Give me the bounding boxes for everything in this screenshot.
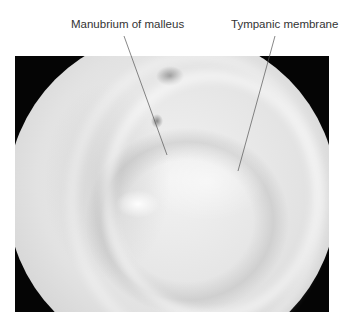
otoscope-frame	[15, 56, 329, 312]
outer-rim-highlight	[67, 56, 327, 312]
label-tympanic-membrane: Tympanic membrane	[231, 19, 338, 31]
tympanic-membrane-view	[15, 56, 329, 312]
label-manubrium-of-malleus: Manubrium of malleus	[71, 19, 184, 31]
